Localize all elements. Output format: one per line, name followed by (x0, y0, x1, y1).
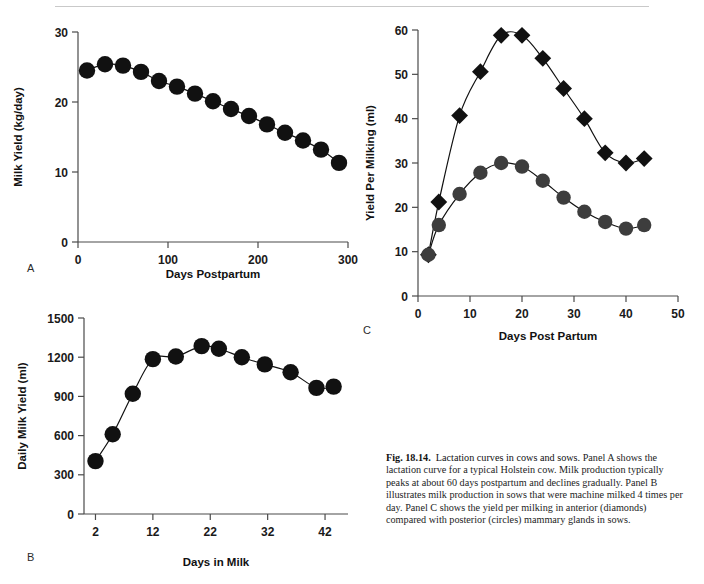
series-line-1 (428, 163, 644, 255)
data-point-circle (104, 426, 120, 442)
data-point-circle (295, 132, 311, 148)
data-point-circle (168, 348, 184, 364)
data-point-circle (432, 218, 446, 232)
y-tick-label: 900 (54, 390, 74, 404)
data-point-circle (282, 364, 298, 380)
data-point-diamond (636, 150, 653, 167)
data-point-circle (241, 108, 257, 124)
data-point-circle (169, 78, 185, 94)
data-point-diamond (576, 110, 593, 127)
data-point-circle (115, 57, 131, 73)
data-point-diamond (493, 27, 510, 44)
data-point-circle (452, 187, 466, 201)
data-point-circle (556, 190, 570, 204)
data-point-circle (494, 156, 508, 170)
data-point-circle (259, 116, 275, 132)
data-point-diamond (472, 63, 489, 80)
y-tick-label: 10 (395, 245, 409, 259)
series-line-0 (95, 346, 333, 461)
data-point-diamond (430, 194, 447, 211)
y-tick-label: 300 (54, 468, 74, 482)
data-point-circle (97, 56, 113, 72)
y-tick-label: 600 (54, 429, 74, 443)
x-tick-label: 0 (75, 253, 82, 267)
x-tick-label: 32 (261, 525, 275, 539)
data-point-circle (473, 166, 487, 180)
panel-label-a: A (27, 262, 34, 274)
data-point-circle (277, 125, 293, 141)
data-point-circle (151, 73, 167, 89)
y-tick-label: 1200 (47, 351, 74, 365)
x-tick-label: 20 (515, 307, 529, 321)
x-tick-label: 42 (318, 525, 332, 539)
data-point-circle (79, 62, 95, 78)
x-axis-title: Days Postpartum (166, 268, 261, 280)
y-axis-title: Daily Milk Yield (ml) (16, 362, 28, 470)
data-point-circle (145, 351, 161, 367)
x-axis-title: Days Post Partum (499, 330, 597, 342)
caption-title: Lactation curves in cows and sows. (436, 452, 580, 463)
data-point-circle (193, 338, 209, 354)
page-header-rule (55, 6, 649, 7)
y-tick-label: 50 (395, 68, 409, 82)
cut-off-header-text (150, 0, 320, 4)
y-tick-label: 60 (395, 24, 409, 38)
chart-panel-c: 010203040506001020304050Yield Per Milkin… (358, 8, 704, 348)
data-point-diamond (514, 27, 531, 44)
y-axis-title: Yield Per Milking (ml) (364, 105, 376, 221)
data-point-circle (331, 155, 347, 171)
x-axis-title: Days in Milk (183, 556, 250, 568)
data-point-circle (536, 174, 550, 188)
data-point-circle (257, 356, 273, 372)
x-tick-label: 30 (567, 307, 581, 321)
y-tick-label: 20 (395, 201, 409, 215)
data-point-circle (308, 380, 324, 396)
data-point-circle (577, 205, 591, 219)
panel-c-plot: 010203040506001020304050Yield Per Milkin… (358, 8, 704, 348)
y-tick-label: 40 (395, 112, 409, 126)
data-point-circle (515, 159, 529, 173)
x-tick-label: 40 (619, 307, 633, 321)
data-point-circle (598, 215, 612, 229)
data-point-circle (211, 341, 227, 357)
x-tick-label: 200 (248, 253, 268, 267)
x-tick-label: 0 (415, 307, 422, 321)
y-tick-label: 0 (61, 236, 68, 250)
chart-panel-b: 030060090012001500212223242Daily Milk Yi… (0, 296, 360, 576)
data-point-circle (87, 453, 103, 469)
data-point-circle (637, 218, 651, 232)
x-tick-label: 10 (463, 307, 477, 321)
y-tick-label: 30 (55, 26, 69, 40)
x-tick-label: 300 (338, 253, 358, 267)
figure-caption: Fig. 18.14. Lactation curves in cows and… (386, 452, 686, 526)
x-tick-label: 100 (158, 253, 178, 267)
data-point-diamond (534, 50, 551, 67)
x-tick-label: 12 (146, 525, 160, 539)
x-tick-label: 22 (204, 525, 218, 539)
data-point-circle (187, 85, 203, 101)
x-tick-label: 50 (671, 307, 685, 321)
data-point-circle (133, 64, 149, 80)
y-tick-label: 0 (67, 508, 74, 522)
y-tick-label: 30 (395, 157, 409, 171)
data-point-diamond (597, 144, 614, 161)
data-point-diamond (618, 155, 635, 172)
panel-a-plot: 01020300100200300Milk Yield (kg/day)Days… (0, 10, 360, 285)
data-point-circle (125, 386, 141, 402)
data-point-circle (205, 93, 221, 109)
data-point-circle (421, 248, 435, 262)
chart-panel-a: 01020300100200300Milk Yield (kg/day)Days… (0, 10, 360, 285)
y-axis-title: Milk Yield (kg/day) (12, 87, 24, 187)
data-point-diamond (451, 107, 468, 124)
y-tick-label: 10 (55, 166, 69, 180)
panel-label-c: C (363, 324, 371, 336)
panel-label-b: B (27, 551, 34, 563)
data-point-circle (234, 349, 250, 365)
y-tick-label: 0 (401, 290, 408, 304)
data-point-circle (619, 221, 633, 235)
y-tick-label: 1500 (47, 312, 74, 326)
panel-b-plot: 030060090012001500212223242Daily Milk Yi… (0, 296, 360, 576)
data-point-diamond (555, 80, 572, 97)
data-point-circle (223, 101, 239, 117)
caption-figure-number: Fig. 18.14. (386, 452, 431, 463)
